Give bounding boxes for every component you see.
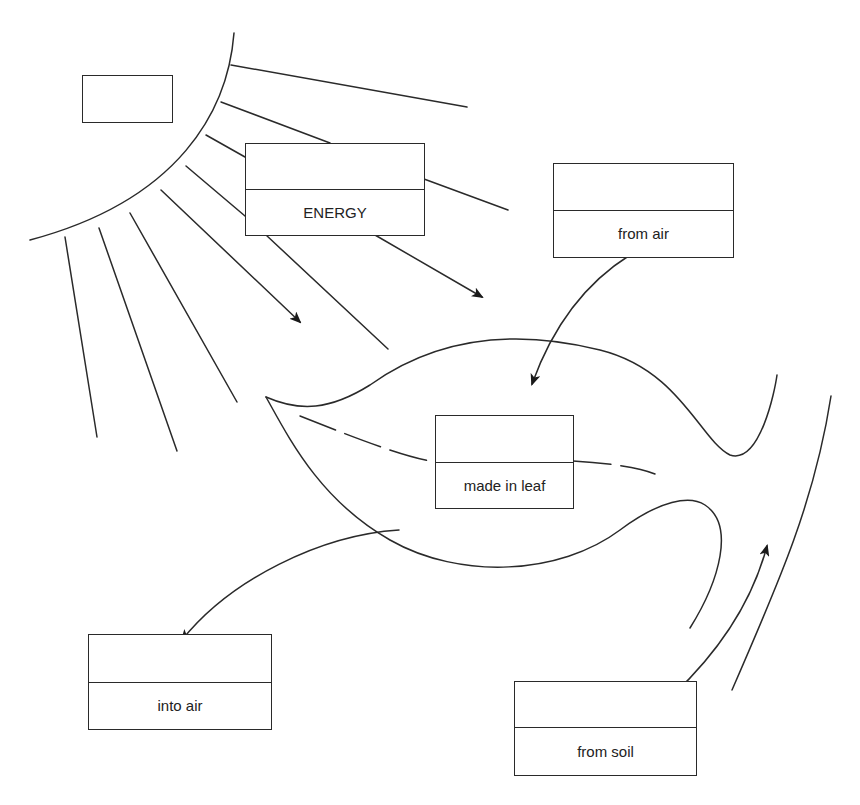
sun-label-box[interactable]: [82, 75, 173, 123]
from-air-box: from air: [553, 163, 734, 258]
sun-ray: [65, 237, 97, 437]
made-in-leaf-label: made in leaf: [436, 462, 573, 508]
sun-ray: [130, 213, 237, 402]
sun-ray: [424, 179, 508, 210]
water-arrow: [673, 546, 767, 695]
energy-blank-field[interactable]: [246, 144, 424, 190]
from-soil-blank-field[interactable]: [515, 682, 696, 728]
sun-ray: [266, 235, 388, 349]
oxygen-arrow: [182, 530, 399, 640]
sun-ray: [99, 228, 177, 451]
sun-outline: [30, 33, 234, 240]
made-in-leaf-box: made in leaf: [435, 415, 574, 509]
sun-ray: [206, 135, 245, 157]
into-air-label: into air: [89, 682, 271, 729]
from-soil-label: from soil: [515, 727, 696, 775]
sun-ray: [186, 166, 245, 216]
sun-ray: [375, 235, 482, 297]
from-soil-box: from soil: [514, 681, 697, 776]
made-in-leaf-blank-field[interactable]: [436, 416, 573, 463]
sun-ray: [221, 102, 330, 143]
energy-label: ENERGY: [246, 189, 424, 235]
into-air-blank-field[interactable]: [89, 635, 271, 683]
into-air-box: into air: [88, 634, 272, 730]
sun-ray: [231, 65, 467, 107]
energy-box: ENERGY: [245, 143, 425, 236]
co2-arrow: [532, 255, 630, 384]
from-air-blank-field[interactable]: [554, 164, 733, 211]
stem-line: [732, 396, 831, 690]
from-air-label: from air: [554, 210, 733, 257]
